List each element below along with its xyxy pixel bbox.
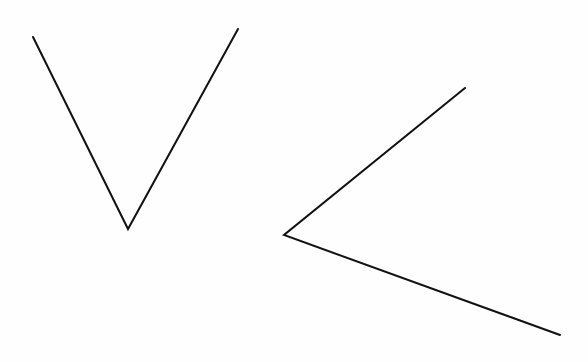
angle-v-shape [33, 29, 238, 229]
diagram-canvas [0, 0, 588, 362]
angles-drawing [0, 0, 588, 362]
angle-left-shape [284, 88, 560, 335]
